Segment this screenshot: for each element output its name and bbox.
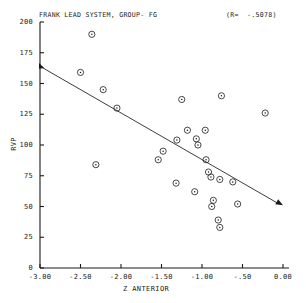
y-axis-ticks [40, 22, 44, 268]
data-point-marker [89, 31, 95, 37]
data-point-marker [230, 179, 236, 185]
data-point-center-dot [116, 107, 118, 109]
data-point-center-dot [187, 129, 189, 131]
data-point-center-dot [205, 159, 207, 161]
data-point-center-dot [264, 112, 266, 114]
data-point-center-dot [181, 99, 183, 101]
data-point-marker [195, 142, 201, 148]
data-point-center-dot [176, 139, 178, 141]
data-point-marker [209, 203, 215, 209]
data-point-center-dot [219, 227, 221, 229]
y-tick-label: 25 [11, 233, 33, 241]
data-point-center-dot [232, 181, 234, 183]
data-point-marker [173, 180, 179, 186]
x-tick-label: -3.00 [23, 273, 57, 281]
x-tick-label: 0.00 [266, 273, 300, 281]
data-point-center-dot [237, 203, 239, 205]
plot-canvas [0, 0, 306, 303]
data-point-center-dot [221, 95, 223, 97]
data-point-center-dot [95, 164, 97, 166]
data-point-center-dot [194, 191, 196, 193]
data-point-center-dot [158, 159, 160, 161]
scatter-plot-figure: FRANK LEAD SYSTEM, GROUP- FG (R= -.5078)… [0, 0, 306, 303]
x-axis-ticks [40, 264, 283, 268]
data-point-marker [192, 189, 198, 195]
x-tick-label: -.50 [226, 273, 260, 281]
data-point-marker [184, 127, 190, 133]
data-point-center-dot [196, 138, 198, 140]
data-point-marker [210, 197, 216, 203]
y-tick-label: 150 [11, 80, 33, 88]
data-point-marker [93, 162, 99, 168]
y-tick-label: 125 [11, 110, 33, 118]
data-point-marker [215, 217, 221, 223]
regression-line [39, 63, 283, 205]
y-tick-label: 0 [11, 264, 33, 272]
data-point-marker [160, 148, 166, 154]
y-tick-label: 200 [11, 18, 33, 26]
y-tick-label: 50 [11, 203, 33, 211]
x-tick-label: -2.00 [104, 273, 138, 281]
data-point-marker [235, 201, 241, 207]
data-point-marker [155, 157, 161, 163]
chart-title: FRANK LEAD SYSTEM, GROUP- FG [39, 11, 157, 19]
data-point-marker [202, 127, 208, 133]
regression-start-marker [39, 63, 44, 69]
data-point-marker [77, 69, 83, 75]
data-point-center-dot [204, 129, 206, 131]
data-point-marker [179, 96, 185, 102]
data-point-center-dot [213, 200, 215, 202]
data-point-center-dot [91, 34, 93, 36]
data-point-marker [208, 174, 214, 180]
x-tick-label: -1.00 [185, 273, 219, 281]
y-tick-label: 175 [11, 49, 33, 57]
correlation-annotation: (R= -.5078) [226, 11, 277, 19]
data-point-marker [217, 224, 223, 230]
y-tick-label: 75 [11, 172, 33, 180]
data-point-marker [100, 87, 106, 93]
data-point-center-dot [219, 179, 221, 181]
x-axis-label: Z ANTERIOR [123, 285, 169, 293]
data-point-center-dot [197, 144, 199, 146]
x-tick-label: -2.50 [64, 273, 98, 281]
data-point-center-dot [210, 176, 212, 178]
data-points [77, 31, 268, 230]
data-point-center-dot [211, 206, 213, 208]
data-point-marker [218, 93, 224, 99]
axes [40, 22, 289, 268]
data-point-center-dot [175, 182, 177, 184]
regression-line-segment [40, 66, 278, 203]
data-point-marker [217, 176, 223, 182]
y-tick-label: 100 [11, 141, 33, 149]
regression-arrowhead-icon [275, 199, 283, 205]
data-point-center-dot [102, 89, 104, 91]
x-tick-label: -1.50 [145, 273, 179, 281]
data-point-center-dot [217, 219, 219, 221]
data-point-center-dot [208, 171, 210, 173]
data-point-marker [193, 136, 199, 142]
data-point-marker [262, 110, 268, 116]
data-point-marker [174, 137, 180, 143]
data-point-center-dot [80, 72, 82, 74]
data-point-center-dot [162, 150, 164, 152]
